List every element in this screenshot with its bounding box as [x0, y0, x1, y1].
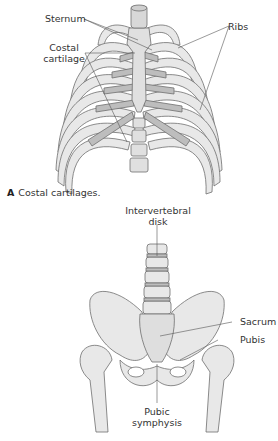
label-intervertebral-line1: Intervertebral	[122, 205, 194, 216]
caption-text: Costal cartilages.	[18, 187, 100, 198]
label-intervertebral-disk: Intervertebral disk	[122, 205, 194, 227]
label-pubic-line2: symphysis	[125, 417, 189, 428]
pelvis	[80, 244, 234, 432]
label-costal-cartilage-line2: cartilage	[40, 53, 88, 64]
label-costal-cartilage-line1: Costal	[40, 42, 88, 53]
label-intervertebral-line2: disk	[122, 216, 194, 227]
rib-cage	[56, 5, 222, 194]
label-pubic-symphysis: Pubic symphysis	[125, 406, 189, 428]
label-pubic-line1: Pubic	[125, 406, 189, 417]
label-pubis: Pubis	[240, 334, 265, 345]
label-ribs: Ribs	[228, 21, 248, 32]
caption-letter: A	[7, 187, 14, 198]
figure-a-caption: ACostal cartilages.	[7, 187, 101, 198]
label-sacrum: Sacrum	[240, 316, 276, 327]
label-costal-cartilage: Costal cartilage	[40, 42, 88, 64]
label-sternum: Sternum	[45, 13, 86, 24]
